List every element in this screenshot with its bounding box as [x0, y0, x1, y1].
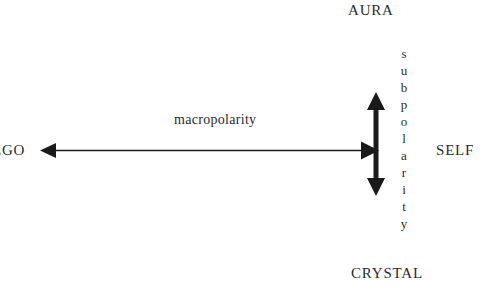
macropolarity-left-arrowhead [40, 143, 56, 158]
pole-label-aura: AURA [348, 3, 394, 18]
axis-label-letter: o [401, 113, 408, 130]
axis-label-letter: a [401, 147, 407, 164]
axis-label-letter: r [402, 164, 406, 181]
pole-label-self: SELF [436, 143, 474, 158]
axis-label-subpolarity: subpolarity [396, 45, 412, 232]
axis-label-letter: l [402, 130, 406, 147]
axis-label-letter: s [401, 45, 406, 62]
axis-label-macropolarity: macropolarity [174, 113, 256, 127]
subpolarity-down-arrowhead [367, 178, 385, 196]
axis-label-letter: t [402, 198, 406, 215]
diagram-canvas: AURA CRYSTAL SELF EGO macropolarity subp… [0, 0, 499, 287]
axis-label-letter: i [402, 181, 406, 198]
subpolarity-up-arrowhead [367, 92, 385, 110]
axis-label-letter: y [401, 215, 408, 232]
subpolarity-axis-arrow [367, 92, 385, 196]
axis-label-letter: p [401, 96, 408, 113]
pole-label-ego: EGO [0, 143, 25, 158]
axis-label-letter: b [401, 79, 408, 96]
arrow-layer [0, 0, 499, 287]
macropolarity-axis-arrow [40, 142, 379, 160]
pole-label-crystal: CRYSTAL [351, 266, 423, 281]
axis-label-letter: u [401, 62, 408, 79]
